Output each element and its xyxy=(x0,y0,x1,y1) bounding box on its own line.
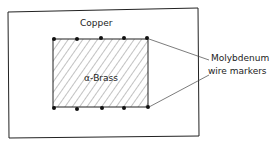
marker-label-line2: wire markers xyxy=(208,66,267,77)
leader-lines xyxy=(149,39,209,107)
marker-label-line1: Molybdenum xyxy=(211,53,269,64)
alpha-brass-label: α-Brass xyxy=(84,73,118,84)
copper-label: Copper xyxy=(80,18,112,29)
